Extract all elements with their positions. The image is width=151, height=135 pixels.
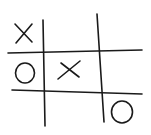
cell-1-0[interactable]: [8, 53, 44, 91]
cell-2-0[interactable]: [12, 91, 44, 126]
cell-2-1[interactable]: [45, 91, 102, 126]
cell-1-2[interactable]: [101, 51, 142, 93]
cell-0-2[interactable]: [100, 14, 142, 51]
cell-0-0[interactable]: [8, 14, 44, 52]
tic-tac-toe-board: [0, 0, 151, 135]
cell-2-2[interactable]: [103, 93, 142, 126]
cell-0-1[interactable]: [44, 14, 99, 52]
